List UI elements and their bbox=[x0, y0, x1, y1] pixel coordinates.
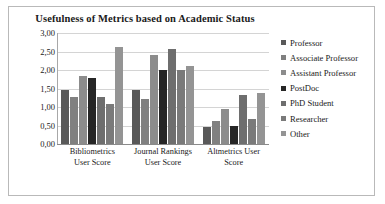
legend-swatch-icon bbox=[281, 86, 286, 91]
y-axis-tick-label: 3,00 bbox=[11, 28, 55, 38]
bar[interactable] bbox=[248, 119, 256, 144]
bar[interactable] bbox=[150, 55, 158, 144]
legend-item-label: Researcher bbox=[290, 114, 328, 124]
bar[interactable] bbox=[159, 70, 167, 144]
bar-group bbox=[132, 33, 194, 144]
legend-item-label: Professor bbox=[290, 38, 322, 48]
bar[interactable] bbox=[70, 97, 78, 144]
bar-group bbox=[61, 33, 123, 144]
x-axis-line bbox=[57, 144, 269, 145]
legend-item[interactable]: Other bbox=[281, 126, 385, 141]
legend-swatch-icon bbox=[281, 40, 286, 45]
legend-item[interactable]: Professor bbox=[281, 35, 385, 50]
bar[interactable] bbox=[106, 104, 114, 144]
bar[interactable] bbox=[141, 99, 149, 144]
y-axis-tick-label: 1,50 bbox=[11, 84, 55, 94]
legend-item-label: Assistant Professor bbox=[290, 68, 356, 78]
y-axis-tick-labels: 3,002,502,001,501,000,500,00 bbox=[9, 33, 55, 145]
bar[interactable] bbox=[97, 97, 105, 144]
bar[interactable] bbox=[203, 127, 211, 144]
y-axis-line bbox=[57, 33, 58, 145]
legend-item[interactable]: Associate Professor bbox=[281, 50, 385, 65]
legend-swatch-icon bbox=[281, 116, 286, 121]
bar[interactable] bbox=[115, 47, 123, 144]
bar[interactable] bbox=[168, 49, 176, 144]
legend-swatch-icon bbox=[281, 55, 286, 60]
x-axis-category-label-line: Bibliometrics bbox=[57, 147, 128, 158]
y-axis-tick-label: 1,00 bbox=[11, 102, 55, 112]
bar[interactable] bbox=[212, 121, 220, 144]
legend-item[interactable]: PostDoc bbox=[281, 81, 385, 96]
x-axis-category-label-line: Journal Rankings bbox=[128, 147, 199, 158]
x-axis-category-label: Journal RankingsUser Score bbox=[128, 147, 199, 168]
legend-item[interactable]: Researcher bbox=[281, 111, 385, 126]
x-axis-category-label: BibliometricsUser Score bbox=[57, 147, 128, 168]
y-axis-tick-label: 0,50 bbox=[11, 121, 55, 131]
y-axis-tick-label: 0,00 bbox=[11, 139, 55, 149]
bar[interactable] bbox=[230, 126, 238, 144]
x-axis-category-label-line: Altmetrics User bbox=[198, 147, 269, 158]
x-axis-category-label: Altmetrics UserScore bbox=[198, 147, 269, 168]
y-axis-tick-label: 2,50 bbox=[11, 47, 55, 57]
chart-container: Usefulness of Metrics based on Academic … bbox=[8, 6, 375, 196]
bar-group bbox=[203, 33, 265, 144]
legend-item-label: PostDoc bbox=[290, 83, 319, 93]
y-axis-tick-label: 2,00 bbox=[11, 65, 55, 75]
legend-item-label: Associate Professor bbox=[290, 53, 358, 63]
legend-swatch-icon bbox=[281, 70, 286, 75]
x-axis-category-label-line: User Score bbox=[128, 158, 199, 169]
legend-item-label: Other bbox=[290, 129, 310, 139]
legend-item[interactable]: PhD Student bbox=[281, 96, 385, 111]
bar[interactable] bbox=[239, 95, 247, 144]
chart-title: Usefulness of Metrics based on Academic … bbox=[9, 13, 281, 24]
bar[interactable] bbox=[61, 90, 69, 144]
legend-swatch-icon bbox=[281, 131, 286, 136]
legend-swatch-icon bbox=[281, 101, 286, 106]
bar[interactable] bbox=[177, 70, 185, 144]
chart-legend: ProfessorAssociate ProfessorAssistant Pr… bbox=[281, 35, 385, 141]
x-axis-category-label-line: Score bbox=[198, 158, 269, 169]
bar[interactable] bbox=[221, 109, 229, 144]
plot-area bbox=[57, 33, 269, 144]
bar[interactable] bbox=[79, 76, 87, 144]
bar[interactable] bbox=[88, 78, 96, 144]
legend-item-label: PhD Student bbox=[290, 98, 334, 108]
x-axis-category-label-line: User Score bbox=[57, 158, 128, 169]
bar[interactable] bbox=[186, 66, 194, 144]
legend-item[interactable]: Assistant Professor bbox=[281, 65, 385, 80]
bar[interactable] bbox=[132, 90, 140, 144]
bar[interactable] bbox=[257, 93, 265, 144]
